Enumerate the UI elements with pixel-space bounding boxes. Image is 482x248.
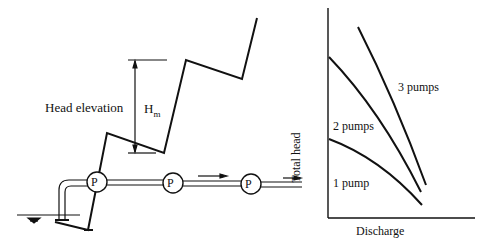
y-axis-label: Total head xyxy=(289,132,304,182)
head-elevation-label: Head elevation xyxy=(45,100,123,116)
curve-label-1-pump: 1 pump xyxy=(333,176,369,191)
pump-label: P xyxy=(245,177,252,192)
curve-label-3-pumps: 3 pumps xyxy=(398,80,439,95)
x-axis-label: Discharge xyxy=(356,224,404,239)
main-pipeline xyxy=(107,180,302,187)
hydraulic-grade-line xyxy=(55,18,257,230)
pump-label: P xyxy=(91,175,98,190)
pump-diagram xyxy=(0,0,482,248)
curve-1-pump xyxy=(329,139,422,205)
curve-3-pumps xyxy=(358,27,426,185)
pump-circles xyxy=(87,172,261,194)
water-surface xyxy=(17,215,80,223)
intake-pipe xyxy=(55,180,88,220)
hm-label: Hm xyxy=(144,101,160,119)
curve-label-2-pumps: 2 pumps xyxy=(333,119,374,134)
pump-label: P xyxy=(167,176,174,191)
